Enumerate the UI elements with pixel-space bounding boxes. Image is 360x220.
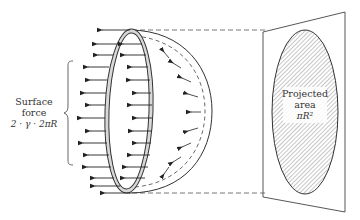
projected-area-formula: πR² [296, 111, 314, 121]
projected-area-line2: area [294, 99, 316, 110]
projected-area-line1: Projected [282, 88, 328, 99]
surface-force-label: Surface force 2 · γ · 2πR [10, 96, 58, 129]
surface-force-line2: force [22, 107, 47, 118]
surface-force-line1: Surface [15, 96, 53, 107]
curly-brace [64, 61, 73, 165]
projected-area-label: Projected area πR² [282, 87, 328, 123]
surface-force-formula: 2 · γ · 2πR [10, 119, 58, 129]
ring-cross-section [102, 28, 156, 194]
surface-tension-diagram: Surface force 2 · γ · 2πR Projected area… [0, 0, 360, 220]
pressure-arrows [164, 52, 201, 174]
